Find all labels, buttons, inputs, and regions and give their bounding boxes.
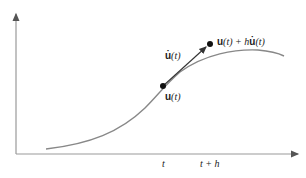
tick-label-t-plus-h: t + h (200, 158, 220, 169)
diagram-canvas (0, 0, 306, 178)
point-u-t (160, 83, 166, 89)
label-u-t: u(t) (165, 91, 181, 102)
label-next-point: u(t) + hu̇(t) (217, 36, 265, 47)
tick-label-t: t (162, 158, 165, 169)
point-u-t-plus-h (207, 41, 213, 47)
label-derivative: u̇(t) (165, 50, 181, 61)
